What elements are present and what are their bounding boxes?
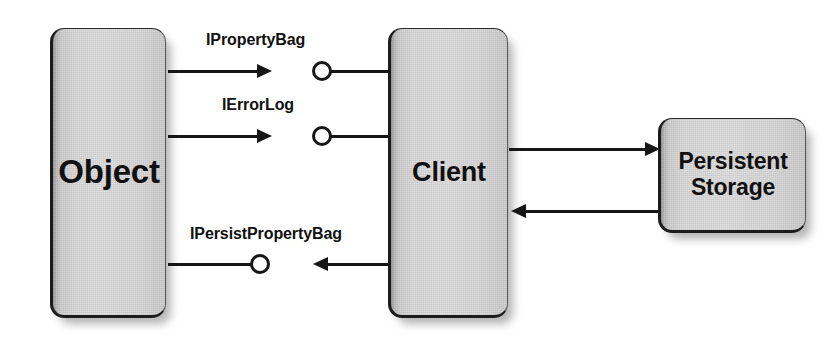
interface-socket-icon-ierrorlog [312, 126, 332, 146]
connector-line-ierrorlog-object-side [168, 135, 258, 138]
connector-line-ierrorlog-client-side [331, 135, 389, 138]
node-client-label: Client [412, 157, 486, 187]
node-persistent-storage-label-line1: Persistent [678, 148, 787, 174]
arrowhead-left-icon-ipersistpropertybag [313, 257, 328, 271]
connector-line-ipersistpropertybag-object-side [168, 263, 252, 266]
arrowhead-right-icon-ierrorlog [257, 129, 272, 143]
interface-socket-icon-ipersistpropertybag [250, 254, 270, 274]
arrowhead-left-icon-storage-to-client [511, 204, 526, 218]
connector-line-ipersistpropertybag-client-side [327, 263, 389, 266]
node-object-label: Object [58, 154, 160, 191]
connector-line-client-to-storage [509, 148, 648, 151]
node-object: Object [50, 28, 166, 318]
arrowhead-right-icon-ipropertybag [257, 64, 272, 78]
connector-line-storage-to-client [525, 210, 660, 213]
interface-label-ierrorlog: IErrorLog [222, 96, 294, 114]
node-persistent-storage-label: PersistentStorage [678, 149, 787, 201]
node-persistent-storage: PersistentStorage [658, 118, 806, 233]
connector-line-ipropertybag-client-side [331, 70, 389, 73]
diagram-canvas: Object Client PersistentStorage IPropert… [0, 0, 835, 340]
node-client: Client [388, 28, 508, 318]
interface-label-ipropertybag: IPropertyBag [206, 31, 305, 49]
node-persistent-storage-label-line2: Storage [691, 174, 775, 200]
interface-socket-icon-ipropertybag [312, 61, 332, 81]
interface-label-ipersistpropertybag: IPersistPropertyBag [190, 225, 342, 243]
arrowhead-right-icon-client-to-storage [645, 142, 660, 156]
connector-line-ipropertybag-object-side [168, 70, 258, 73]
